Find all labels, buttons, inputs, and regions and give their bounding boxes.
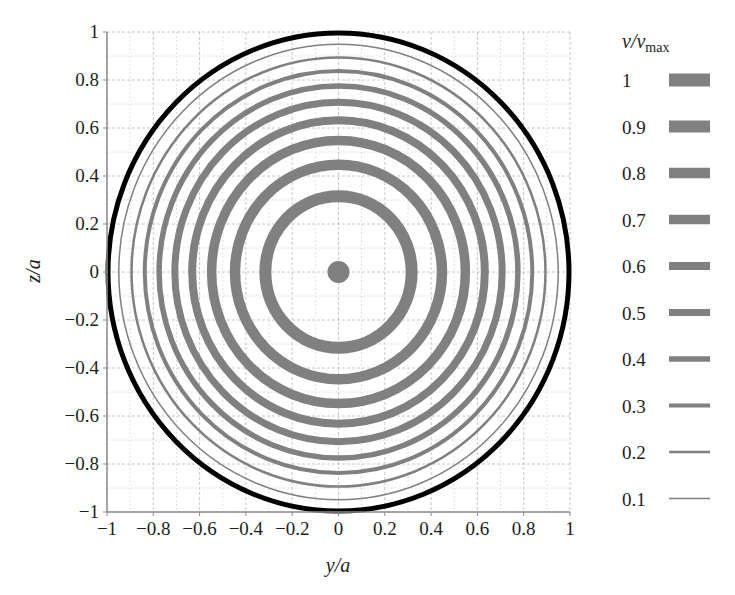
legend-entry: 0.6: [622, 256, 710, 277]
x-tick-label: −1: [97, 518, 117, 539]
y-tick-label: −0.4: [65, 357, 100, 378]
legend-entry-label: 0.8: [622, 163, 646, 184]
legend-entry: 0.9: [622, 117, 710, 138]
legend-entry: 0.4: [622, 349, 710, 370]
x-tick-label: 0.8: [512, 518, 536, 539]
x-axis-ticks: −1−0.8−0.6−0.4−0.200.20.40.60.81: [97, 512, 575, 539]
x-tick-label: 0.6: [466, 518, 490, 539]
legend-entry: 1: [622, 70, 710, 91]
legend: v/vmax 10.90.80.70.60.50.40.30.20.1: [622, 30, 710, 510]
y-tick-label: 0.8: [75, 69, 99, 90]
y-tick-label: −1: [79, 501, 99, 522]
x-axis-label: y/a: [324, 554, 350, 577]
legend-entry: 0.5: [622, 303, 710, 324]
legend-entry: 0.8: [622, 163, 710, 184]
contour-center-dot: [327, 261, 349, 283]
x-tick-label: −0.4: [229, 518, 264, 539]
velocity-contours: [108, 33, 569, 511]
pipe-velocity-contour-chart: −1−0.8−0.6−0.4−0.200.20.40.60.81 10.80.6…: [0, 0, 735, 595]
x-tick-label: −0.2: [275, 518, 309, 539]
legend-entry-label: 0.5: [622, 303, 646, 324]
y-axis-label: z/a: [22, 259, 44, 283]
y-tick-label: 0.4: [75, 165, 99, 186]
y-tick-label: −0.8: [65, 453, 99, 474]
x-tick-label: −0.6: [182, 518, 216, 539]
legend-entry-label: 0.2: [622, 442, 646, 463]
legend-entry-label: 0.6: [622, 256, 646, 277]
y-tick-label: 0: [90, 261, 100, 282]
legend-entry-label: 0.7: [622, 210, 646, 231]
x-tick-label: −0.8: [136, 518, 170, 539]
legend-entry: 0.2: [622, 442, 710, 463]
x-tick-label: 1: [565, 518, 575, 539]
legend-entry-label: 0.4: [622, 349, 646, 370]
legend-title-main: v/v: [622, 30, 645, 52]
x-tick-label: 0: [334, 518, 344, 539]
legend-entry-label: 0.9: [622, 117, 646, 138]
legend-entries: 10.90.80.70.60.50.40.30.20.1: [622, 70, 710, 510]
y-tick-label: −0.6: [65, 405, 99, 426]
x-tick-label: 0.4: [419, 518, 443, 539]
y-tick-label: 0.6: [75, 117, 99, 138]
legend-entry: 0.1: [622, 489, 710, 510]
x-tick-label: 0.2: [373, 518, 397, 539]
y-tick-label: 0.2: [75, 213, 99, 234]
legend-entry: 0.3: [622, 396, 710, 417]
legend-entry-label: 0.3: [622, 396, 646, 417]
legend-title-subscript: max: [645, 40, 669, 55]
legend-entry: 0.7: [622, 210, 710, 231]
y-tick-label: −0.2: [65, 309, 99, 330]
y-axis-ticks: 10.80.60.40.20−0.2−0.4−0.6−0.8−1: [65, 21, 107, 522]
legend-entry-label: 1: [622, 70, 632, 91]
legend-entry-label: 0.1: [622, 489, 646, 510]
y-tick-label: 1: [90, 21, 100, 42]
legend-title: v/vmax: [622, 30, 669, 55]
